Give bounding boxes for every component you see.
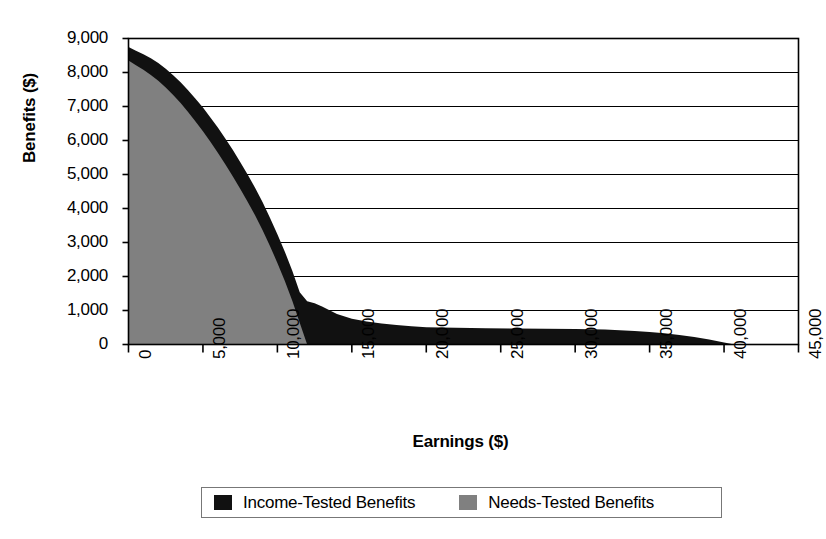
- x-tick-label: 30,000: [582, 308, 602, 358]
- chart-legend: Income-Tested Benefits Needs-Tested Bene…: [201, 487, 722, 518]
- plot-area: [0, 0, 826, 539]
- legend-item-income-tested: Income-Tested Benefits: [214, 493, 415, 513]
- x-axis-tick-labels: 05,00010,00015,00020,00025,00030,00035,0…: [0, 352, 826, 432]
- x-tick-label: 45,000: [806, 308, 826, 358]
- x-tick-label: 25,000: [508, 308, 528, 358]
- x-tick-label: 40,000: [731, 308, 751, 358]
- benefits-vs-earnings-chart: Benefits ($) 01,0002,0003,0004,0005,0006…: [0, 0, 826, 539]
- x-axis-title: Earnings ($): [328, 432, 593, 452]
- x-tick-label: 35,000: [657, 308, 677, 358]
- legend-label-income-tested: Income-Tested Benefits: [243, 493, 415, 513]
- x-tick-label: 20,000: [433, 308, 453, 358]
- x-tick-label: 15,000: [359, 308, 379, 358]
- legend-item-needs-tested: Needs-Tested Benefits: [459, 493, 654, 513]
- legend-swatch-income-tested: [214, 495, 232, 510]
- legend-swatch-needs-tested: [459, 495, 477, 510]
- x-tick-label: 5,000: [210, 317, 230, 358]
- x-tick-label: 10,000: [284, 308, 304, 358]
- legend-label-needs-tested: Needs-Tested Benefits: [488, 493, 654, 513]
- x-tick-label: 0: [136, 349, 156, 358]
